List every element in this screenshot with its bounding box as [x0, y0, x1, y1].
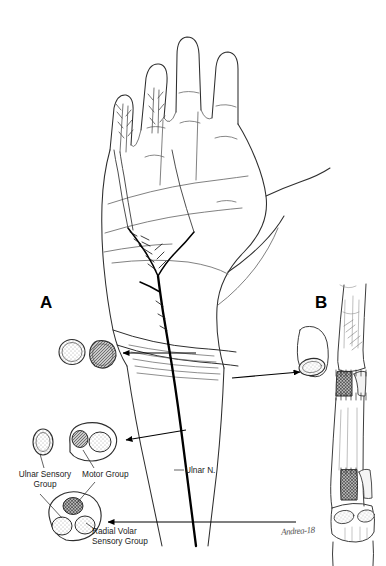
cross-section-proximal-pair	[59, 340, 116, 369]
leader-lines	[40, 450, 184, 530]
motor-fascicle-shaded	[72, 431, 88, 448]
arrow-to-motor-section	[126, 430, 186, 440]
ulnar-nerve-trunk	[158, 276, 196, 546]
thenar-crease	[218, 228, 278, 305]
fascicle-stippled-left	[52, 517, 72, 535]
motor-fascicle-stippled	[89, 432, 111, 452]
web-spaces	[131, 110, 212, 147]
palm-outline	[102, 124, 267, 368]
proximal-fascicle-fan	[344, 320, 362, 350]
distal-nerve-end-assembly	[331, 468, 375, 542]
distal-graft-block	[341, 470, 358, 500]
label-ulnar-nerve: Ulnar N.	[185, 466, 215, 476]
label-motor-group: Motor Group	[82, 470, 144, 480]
cross-section-outline-ring	[59, 340, 85, 365]
panel-b-lower-extension	[333, 541, 374, 566]
thumb-outline	[228, 168, 330, 272]
distal-fascicle-b	[357, 509, 376, 524]
distal-fascicle-a	[333, 509, 355, 525]
index-finger-outline	[176, 37, 201, 112]
label-ulnar-sensory-group: Ulnar Sensory Group	[8, 470, 82, 490]
arrow-to-graft-section	[232, 372, 300, 378]
label-radial-volar-sensory-group: Radial Volar Sensory Group	[92, 527, 178, 547]
figure-root: A B Ulnar Sensory Group Motor Group Radi…	[0, 0, 386, 566]
leader-ulnar-sensory	[40, 454, 44, 468]
digital-nerve-branches	[116, 88, 165, 152]
graft-cross-section	[297, 326, 328, 377]
ring-finger-outline	[212, 52, 238, 124]
panel-letter-b: B	[315, 294, 327, 311]
cross-section-shaded-blob	[90, 341, 117, 368]
panel-b-illustration	[297, 284, 375, 566]
cross-section-motor-group	[70, 423, 117, 461]
cross-section-ulnar-sensory-group	[33, 429, 53, 455]
panel-letter-a: A	[40, 294, 52, 311]
section-arrows	[108, 353, 300, 522]
